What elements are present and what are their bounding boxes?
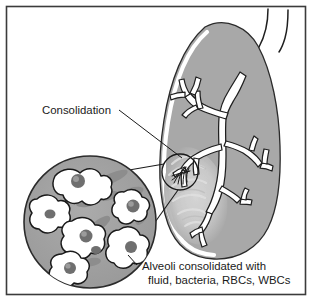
caption-line-2: fluid, bacteria, RBCs, WBCs xyxy=(148,274,291,286)
alveoli-magnifier xyxy=(24,156,156,288)
caption-line-1: Alveoli consolidated with xyxy=(142,260,266,272)
consolidation-label: Consolidation xyxy=(42,104,111,116)
figure-root: Consolidation Alveoli consolidated with … xyxy=(0,0,313,306)
pneumonia-consolidation-illustration: Consolidation Alveoli consolidated with … xyxy=(0,0,313,306)
